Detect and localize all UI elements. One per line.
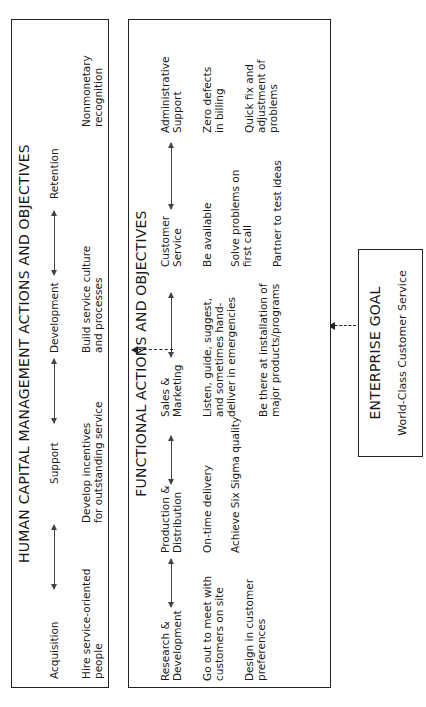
- enterprise-goal-box: ENTERPRISE GOAL World-Class Customer Ser…: [358, 249, 423, 457]
- double-arrow-icon: [54, 211, 55, 275]
- column-header-support: Support: [48, 442, 60, 484]
- production-item-1: On-time delivery: [201, 465, 213, 553]
- dashed-arrow-functional-to-goal: [330, 325, 356, 326]
- double-arrow-icon: [171, 436, 172, 484]
- enterprise-goal-subtitle: World-Class Customer Service: [397, 250, 409, 456]
- development-item: Build service cultureand processes: [80, 246, 104, 353]
- customer-service-item-1: Be available: [201, 203, 213, 267]
- enterprise-goal-title: ENTERPRISE GOAL: [369, 250, 381, 456]
- support-item: Develop incentivesfor outstanding servic…: [80, 402, 104, 524]
- double-arrow-icon: [171, 143, 172, 209]
- diagram-canvas: ENTERPRISE GOAL World-Class Customer Ser…: [0, 0, 426, 707]
- sales-item-2: Be there at installation ofmajor product…: [257, 284, 281, 417]
- column-header-development: Development: [48, 282, 60, 353]
- human-capital-title: HUMAN CAPITAL MANAGEMENT ACTIONS AND OBJ…: [18, 20, 30, 687]
- double-arrow-icon: [54, 359, 55, 423]
- column-header-sales: Sales &Marketing: [159, 365, 183, 417]
- customer-service-item-2: Solve problems onfirst call: [229, 170, 253, 267]
- double-arrow-icon: [54, 525, 55, 589]
- column-header-production: Production &Distribution: [159, 486, 183, 553]
- sales-item-1: Listen, guide, suggest,and sometimes han…: [201, 297, 237, 417]
- admin-item-1: Zero defectsin billing: [201, 67, 225, 133]
- customer-service-item-3: Partner to test ideas: [271, 160, 283, 267]
- research-item-1: Go out to meet withcustomers on site: [201, 576, 225, 681]
- production-item-2: Achieve Six Sigma quality: [229, 417, 241, 553]
- retention-item: Nonmonetaryrecognition: [80, 55, 104, 127]
- dashed-arrow-hc-to-functional: [133, 349, 173, 350]
- column-header-research: Research &Development: [159, 610, 183, 681]
- column-header-admin-support: AdministrativeSupport: [159, 57, 183, 133]
- column-header-customer-service: CustomerService: [159, 216, 183, 267]
- functional-box: FUNCTIONAL ACTIONS AND OBJECTIVES Resear…: [128, 19, 331, 688]
- double-arrow-icon: [171, 559, 172, 607]
- column-header-acquisition: Acquisition: [48, 621, 60, 679]
- acquisition-item: Hire service-orientedpeople: [80, 569, 104, 679]
- admin-item-2: Quick fix andadjustment ofproblems: [243, 60, 279, 133]
- human-capital-box: HUMAN CAPITAL MANAGEMENT ACTIONS AND OBJ…: [11, 19, 109, 688]
- column-header-retention: Retention: [48, 148, 60, 199]
- research-item-2: Design in customerpreferences: [243, 579, 267, 681]
- double-arrow-icon: [171, 293, 172, 357]
